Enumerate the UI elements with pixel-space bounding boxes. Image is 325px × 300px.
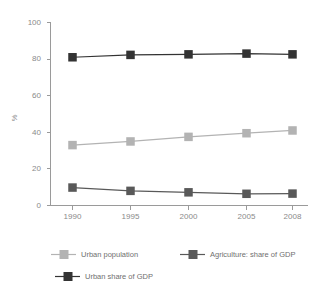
x-tick-label: 2000 — [180, 212, 198, 221]
data-point-marker — [242, 49, 251, 58]
legend-item[interactable]: Agriculture: share of GDP — [180, 250, 295, 259]
y-axis-title: % — [10, 114, 19, 121]
series-line — [73, 54, 293, 58]
y-tick-label: 40 — [32, 128, 41, 137]
data-point-marker — [242, 129, 251, 138]
data-point-marker — [184, 133, 193, 142]
y-tick-label: 0 — [37, 201, 42, 210]
data-point-marker — [184, 50, 193, 59]
y-tick-label: 20 — [32, 164, 41, 173]
legend-marker-icon — [189, 250, 198, 259]
series-0 — [68, 126, 297, 149]
x-axis-tick-labels: 1990 1995 2000 2005 2008 — [64, 212, 302, 221]
y-axis-tick-labels: 100 80 60 40 20 0 — [28, 18, 42, 210]
series-1 — [68, 183, 297, 198]
series-line — [73, 188, 293, 194]
chart-legend: Urban population Agriculture: share of G… — [51, 250, 295, 281]
legend-item-label: Agriculture: share of GDP — [210, 250, 295, 259]
x-tick-label: 2005 — [238, 212, 256, 221]
data-point-marker — [126, 187, 135, 196]
x-tick-label: 1990 — [64, 212, 82, 221]
data-point-marker — [288, 50, 297, 59]
y-axis-ticks — [47, 23, 51, 206]
data-point-marker — [288, 189, 297, 198]
y-tick-label: 100 — [28, 18, 42, 27]
legend-item[interactable]: Urban share of GDP — [55, 272, 153, 281]
x-axis-ticks — [73, 206, 293, 210]
legend-marker-icon — [60, 250, 69, 259]
series-line — [73, 130, 293, 145]
series-layer — [68, 49, 297, 198]
data-point-marker — [242, 190, 251, 199]
chart-container: % 100 80 60 40 20 0 — [0, 0, 325, 300]
data-point-marker — [126, 137, 135, 146]
x-tick-label: 1995 — [122, 212, 140, 221]
legend-marker-icon — [64, 272, 73, 281]
data-point-marker — [68, 183, 77, 192]
y-tick-label: 60 — [32, 91, 41, 100]
legend-item-label: Urban share of GDP — [85, 272, 153, 281]
data-point-marker — [68, 53, 77, 62]
line-chart: % 100 80 60 40 20 0 — [0, 0, 325, 300]
legend-item-label: Urban population — [81, 250, 138, 259]
y-tick-label: 80 — [32, 54, 41, 63]
data-point-marker — [126, 51, 135, 60]
series-2 — [68, 49, 297, 61]
data-point-marker — [184, 188, 193, 197]
legend-item[interactable]: Urban population — [51, 250, 138, 259]
x-tick-label: 2008 — [284, 212, 302, 221]
data-point-marker — [288, 126, 297, 135]
data-point-marker — [68, 141, 77, 150]
